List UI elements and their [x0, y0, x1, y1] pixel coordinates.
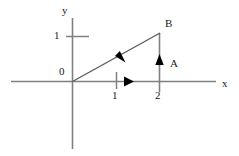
x-tick-label-1: 1 — [112, 90, 118, 101]
vector-b-label: B — [165, 18, 172, 29]
vector-a-label: A — [170, 58, 178, 69]
x-axis-label: x — [222, 78, 228, 89]
vector-a-arrowhead — [155, 54, 163, 65]
y-axis-label: y — [62, 5, 68, 16]
y-tick-label-1: 1 — [54, 30, 60, 41]
origin-label: 0 — [59, 66, 65, 77]
vector-x-component-arrowhead — [124, 77, 134, 87]
x-tick-label-2: 2 — [155, 90, 161, 101]
diagram-canvas — [0, 0, 239, 156]
vector-diagram-figure: y 1 0 1 2 x A B — [0, 0, 239, 156]
